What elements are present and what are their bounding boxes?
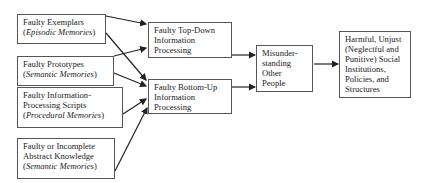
box-line: standing [262, 58, 307, 68]
box-line: Structures [345, 84, 405, 94]
box-line: Information [154, 92, 226, 102]
box-line: Other [262, 68, 307, 78]
box-faulty-top-down: Faulty Top-Down Information Processing [148, 22, 232, 58]
box-line: Processing Scripts [23, 100, 117, 110]
box-line: Faulty Top-Down [154, 25, 226, 35]
box-line: (Episodic Memories) [23, 27, 100, 37]
box-line: Faulty Bottom-Up [154, 82, 226, 92]
arrow-exemplars-topdown [106, 16, 146, 24]
box-harmful-social-institutions: Harmful, Unjust (Neglectful and Punitive… [339, 31, 411, 98]
box-line: Faulty Prototypes [23, 59, 108, 69]
box-line: Institutions, [345, 64, 405, 74]
box-misunderstanding-other-people: Misunder- standing Other People [256, 45, 313, 92]
box-line: Information [154, 35, 226, 45]
box-line: Processing [154, 45, 226, 55]
box-faulty-exemplars: Faulty Exemplars (Episodic Memories) [17, 14, 106, 44]
box-line: (Semantic Memories) [23, 69, 108, 79]
box-line: (Procedural Memories) [23, 110, 117, 120]
box-faulty-prototypes: Faulty Prototypes (Semantic Memories) [17, 56, 114, 86]
box-line: Punitive) Social [345, 54, 405, 64]
box-faulty-bottom-up: Faulty Bottom-Up Information Processing [148, 79, 232, 114]
box-line: Policies, and [345, 74, 405, 84]
box-line: Harmful, Unjust [345, 34, 405, 44]
box-line: Faulty Exemplars [23, 17, 100, 27]
box-faulty-scripts: Faulty Information- Processing Scripts (… [17, 87, 123, 128]
box-line: Faulty Information- [23, 90, 117, 100]
arrow-scripts-bottomup [123, 99, 146, 114]
box-line: People [262, 78, 307, 88]
box-line: (Neglectful and [345, 44, 405, 54]
box-line: Abstract Knowledge [23, 151, 109, 161]
arrow-prototypes-topdown [114, 48, 146, 56]
box-line: (Semantic Memories) [23, 161, 109, 171]
box-line: Faulty or Incomplete [23, 141, 109, 151]
box-line: Misunder- [262, 48, 307, 58]
box-line: Processing [154, 102, 226, 112]
box-faulty-abstract-knowledge: Faulty or Incomplete Abstract Knowledge … [17, 138, 115, 179]
